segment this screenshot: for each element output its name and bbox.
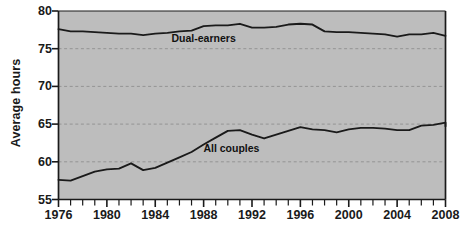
line-chart: Average hours 556065707580 1976198019841… bbox=[0, 0, 466, 235]
x-axis-tick-label: 1976 bbox=[45, 208, 73, 222]
y-axis-tick-label: 75 bbox=[38, 43, 52, 56]
x-axis-tick-label: 2004 bbox=[383, 208, 411, 222]
y-axis-tick-label: 55 bbox=[38, 194, 52, 207]
y-axis-tick-label: 80 bbox=[38, 5, 52, 18]
x-axis-tick-label: 1996 bbox=[286, 208, 314, 222]
x-axis-tick-label: 2008 bbox=[432, 208, 460, 222]
y-axis-tick-label: 65 bbox=[38, 118, 52, 131]
x-axis-ticks bbox=[59, 200, 446, 208]
x-axis-tick-label: 1992 bbox=[238, 208, 266, 222]
y-axis-tick-label: 60 bbox=[38, 156, 52, 169]
y-axis-ticks bbox=[52, 11, 59, 200]
plot-background bbox=[59, 11, 446, 200]
series-label-dual-earners: Dual-earners bbox=[172, 32, 236, 44]
y-axis-title: Average hours bbox=[9, 33, 23, 173]
x-axis-tick-label: 2000 bbox=[335, 208, 363, 222]
x-axis-tick-label: 1988 bbox=[190, 208, 218, 222]
y-axis-tick-label: 70 bbox=[38, 80, 52, 93]
x-axis-tick-label: 1984 bbox=[141, 208, 169, 222]
x-axis-tick-label: 1980 bbox=[93, 208, 121, 222]
series-label-all-couples: All couples bbox=[203, 142, 259, 154]
